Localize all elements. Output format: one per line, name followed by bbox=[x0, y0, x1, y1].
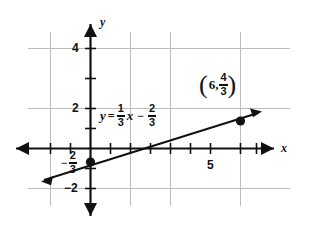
point-6-4-3 bbox=[236, 116, 245, 125]
equation-variable: x bbox=[127, 109, 134, 122]
equation-lhs: y bbox=[100, 109, 106, 122]
y-axis-bottom-arrowhead bbox=[84, 203, 97, 216]
point-label-6-4-3: ( 6, 4 3 ) bbox=[199, 72, 236, 98]
slope-numerator: 1 bbox=[117, 103, 125, 115]
y-tick-label-4: 4 bbox=[72, 42, 79, 54]
x-axis-left-arrowhead bbox=[16, 142, 29, 155]
point-label-denominator: 3 bbox=[219, 86, 227, 98]
point-label-x: 6, bbox=[209, 78, 219, 91]
equation-equals: = bbox=[108, 110, 115, 122]
equation-intercept-fraction: 2 3 bbox=[148, 103, 156, 129]
intercept-label-denominator: 3 bbox=[69, 164, 77, 176]
intercept-denominator: 3 bbox=[148, 117, 156, 129]
point-label-numerator: 4 bbox=[219, 72, 227, 84]
x-axis-name: x bbox=[281, 142, 287, 154]
intercept-label-numerator: 2 bbox=[69, 150, 77, 162]
x-tick-label-5: 5 bbox=[207, 159, 214, 171]
y-tick-label-neg2: −2 bbox=[64, 182, 78, 194]
point-y-intercept bbox=[86, 157, 95, 166]
y-axis-top-arrowhead bbox=[84, 24, 97, 37]
point-label-fraction: 4 3 bbox=[219, 72, 227, 98]
point-label-close-paren: ) bbox=[228, 74, 237, 96]
intercept-numerator: 2 bbox=[148, 103, 156, 115]
y-axis-name: y bbox=[100, 16, 105, 28]
x-axis-right-arrowhead bbox=[261, 142, 274, 155]
graph-figure: y x 4 2 −2 5 y = 1 3 x − 2 3 ( 6, 4 3 ) bbox=[0, 0, 316, 228]
y-axis bbox=[84, 24, 97, 216]
y-tick-label-2: 2 bbox=[72, 102, 79, 114]
point-label-open-paren: ( bbox=[199, 74, 208, 96]
coordinate-plane-svg bbox=[0, 0, 316, 228]
equation-operator: − bbox=[137, 110, 144, 122]
intercept-label-minus: − bbox=[61, 157, 68, 169]
line-left-arrowhead bbox=[41, 176, 53, 185]
slope-denominator: 3 bbox=[117, 117, 125, 129]
equation-annotation: y = 1 3 x − 2 3 bbox=[100, 103, 156, 129]
equation-slope-fraction: 1 3 bbox=[117, 103, 125, 129]
intercept-label-fraction: 2 3 bbox=[69, 150, 77, 176]
intercept-label-neg-two-thirds: − 2 3 bbox=[61, 150, 77, 176]
